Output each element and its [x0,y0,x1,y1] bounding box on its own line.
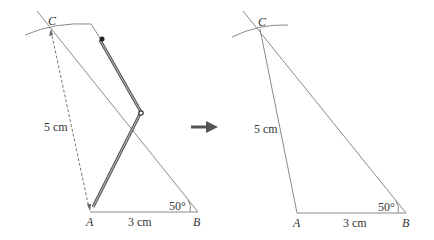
label-b-left: B [193,215,201,229]
label-c-right: C [258,15,267,29]
line-bc-left [37,11,198,212]
label-a-left: A [85,215,94,229]
construction-diagram: C 5 cm 50° A 3 cm B C 5 cm 50° A 3 cm B [0,0,434,240]
compass-icon [91,24,143,207]
right-arrow-icon [191,121,218,133]
label-ab-right: 3 cm [343,216,367,230]
label-ab-left: 3 cm [128,215,152,229]
label-b-right: B [402,216,410,230]
label-angle-b-right: 50° [378,200,395,214]
arc-left [25,24,91,35]
label-angle-b-left: 50° [169,199,186,213]
left-panel: C 5 cm 50° A 3 cm B [25,11,201,229]
arrowhead-a-icon [87,204,91,211]
right-panel: C 5 cm 50° A 3 cm B [232,11,410,230]
label-c-left: C [48,14,57,28]
line-ac-right [260,29,297,213]
line-bc-right [243,11,406,213]
label-ac-left: 5 cm [44,120,68,134]
label-ac-right: 5 cm [254,122,278,136]
label-a-right: A [292,216,301,230]
